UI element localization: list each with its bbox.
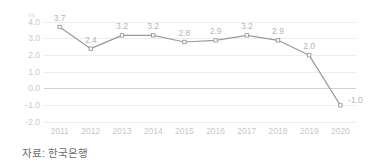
x-tick-label: 2018: [261, 126, 295, 137]
data-point-marker: [245, 34, 248, 37]
x-tick-label: 2014: [136, 126, 170, 137]
y-tick-label: 2.0: [14, 51, 40, 60]
x-tick-label: 2012: [74, 126, 108, 137]
x-tick-label: 2016: [199, 126, 233, 137]
y-tick-label: 3.0: [14, 34, 40, 43]
data-point-marker: [183, 40, 186, 43]
x-tick-label: 2013: [105, 126, 139, 137]
data-point-label: 2.4: [78, 36, 104, 45]
y-tick-label: 1.0: [14, 68, 40, 77]
data-point-label: 2.8: [171, 29, 197, 38]
y-tick-label: -1.0: [14, 101, 40, 110]
x-tick-label: 2015: [167, 126, 201, 137]
data-point-label: -1.0: [342, 96, 368, 105]
x-tick-label: 2019: [292, 126, 326, 137]
x-axis: 2011201220132014201520162017201820192020: [44, 126, 356, 140]
plot-area: 3.72.43.23.22.82.93.22.92.0-1.0: [44, 22, 356, 122]
data-point-label: 3.2: [140, 22, 166, 31]
data-point-marker: [214, 39, 217, 42]
source-caption: 자료: 한국은행: [22, 146, 88, 160]
x-tick-label: 2017: [230, 126, 264, 137]
data-point-marker: [58, 25, 61, 28]
data-point-marker: [89, 47, 92, 50]
y-axis: 4.03.02.01.00.0-1.0-2.0: [12, 22, 40, 122]
y-tick-label: 0.0: [14, 84, 40, 93]
data-point-label: 2.9: [203, 27, 229, 36]
data-point-marker: [120, 34, 123, 37]
data-point-marker: [308, 54, 311, 57]
y-tick-label: 4.0: [14, 18, 40, 27]
data-point-label: 2.9: [265, 27, 291, 36]
data-point-label: 3.2: [109, 22, 135, 31]
data-point-marker: [152, 34, 155, 37]
x-tick-label: 2020: [323, 126, 357, 137]
x-tick-label: 2011: [43, 126, 77, 137]
chart-figure: % 4.03.02.01.00.0-1.0-2.0 3.72.43.23.22.…: [0, 0, 369, 167]
data-point-label: 3.7: [47, 14, 73, 23]
data-point-label: 2.0: [296, 42, 322, 51]
y-tick-label: -2.0: [14, 118, 40, 127]
data-point-marker: [276, 39, 279, 42]
data-point-label: 3.2: [234, 22, 260, 31]
